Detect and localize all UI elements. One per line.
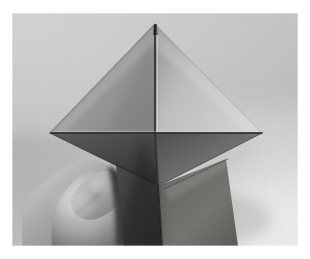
knuckle-highlight <box>56 190 92 216</box>
finger-highlight <box>90 177 110 193</box>
image-caption: A left hand holds a gray folded-paper oc… <box>0 0 1 1</box>
image-canvas: A left hand holds a gray folded-paper oc… <box>0 0 310 259</box>
photograph <box>12 13 298 246</box>
octahedron-vector <box>12 13 298 246</box>
origami-octahedron <box>12 13 298 246</box>
